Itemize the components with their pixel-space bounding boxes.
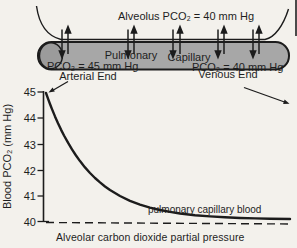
co2-up-arrow-icon — [65, 27, 70, 34]
curve-annotation: pulmonary capillary blood — [148, 204, 261, 215]
alveolus-pco2-label: Alveolus PCO₂ = 40 mm Hg — [118, 10, 254, 22]
arterial-end-arrow — [49, 82, 69, 93]
y-tick-label: 44 — [24, 112, 36, 124]
y-tick-label: 45 — [24, 86, 36, 98]
y-tick-label: 41 — [24, 190, 36, 202]
pco2-curve — [46, 93, 290, 219]
y-axis-title: Blood PCO₂ (mm Hg) — [1, 104, 13, 209]
scan-edge-artifact — [295, 0, 297, 36]
y-tick-label: 40 — [24, 216, 36, 228]
figure-container: Alveolus PCO₂ = 40 mm Hg Pulmonary Capil… — [0, 0, 297, 248]
venous-end-label: Venous End — [198, 68, 257, 80]
co2-up-arrow-icon — [221, 27, 226, 34]
co2-up-arrow-icon — [131, 27, 136, 34]
y-tick-label: 43 — [24, 139, 36, 151]
dashed-line-annotation: Alveolar carbon dioxide partial pressure — [56, 231, 244, 243]
y-tick-label: 42 — [24, 165, 36, 177]
venous-end-arrow — [244, 88, 290, 104]
alveolar-pco2-dashed-line — [46, 223, 293, 225]
co2-up-arrow-icon — [177, 27, 182, 34]
arterial-end-label: Arterial End — [59, 70, 116, 82]
co2-up-arrow-icon — [256, 27, 261, 34]
figure-svg: Alveolus PCO₂ = 40 mm Hg Pulmonary Capil… — [0, 0, 297, 248]
